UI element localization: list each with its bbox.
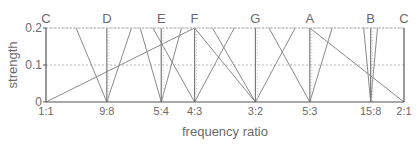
note-label: F — [191, 11, 199, 26]
x-tick-label: 1:1 — [38, 105, 53, 117]
x-tick-label: 4:3 — [187, 105, 202, 117]
x-tick-label: 9:8 — [99, 105, 114, 117]
series-line — [46, 28, 195, 102]
x-tick-label: 5:4 — [154, 105, 169, 117]
y-tick-label: 0.1 — [25, 58, 42, 72]
note-label: C — [41, 11, 50, 26]
y-axis-label: strength — [5, 42, 20, 89]
x-tick-label: 15:8 — [360, 105, 381, 117]
y-tick-label: 0.2 — [25, 21, 42, 35]
x-tick-label: 3:2 — [248, 105, 263, 117]
x-axis-ticks: 1:19:85:44:33:25:315:82:1 — [38, 105, 411, 117]
x-tick-label: 2:1 — [396, 105, 411, 117]
strength-vs-ratio-chart: 00.10.2 1:19:85:44:33:25:315:82:1 CDEFGA… — [0, 0, 420, 149]
note-label: B — [366, 11, 375, 26]
note-label: D — [102, 11, 111, 26]
x-tick-label: 5:3 — [302, 105, 317, 117]
note-label: G — [250, 11, 260, 26]
note-label: A — [306, 11, 315, 26]
y-axis-ticks: 00.10.2 — [25, 21, 46, 109]
x-axis-label: frequency ratio — [182, 124, 268, 139]
note-label: E — [157, 11, 166, 26]
note-label: C — [399, 11, 408, 26]
note-labels: CDEFGABC — [41, 11, 408, 26]
